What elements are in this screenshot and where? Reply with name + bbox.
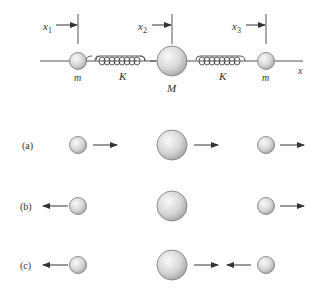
mode-c: (c) [20,250,275,280]
system-at-rest: x x1 x2 x3 [40,14,303,94]
mode-label-b: (b) [20,201,32,213]
mass-label-left: m [74,72,81,83]
mass-m-left [70,53,87,70]
mode-b: (b) [20,191,304,221]
mass-label-center: M [166,82,177,94]
spring-label-left: K [118,70,127,82]
mode-label-a: (a) [22,140,33,152]
position-marker-x1: x1 [42,14,78,44]
spring-label-right: K [218,70,227,82]
spring-mass-diagram: x x1 x2 x3 [0,0,314,294]
mass-label-right: m [262,72,269,83]
svg-text:x1: x1 [42,20,52,35]
position-marker-x3: x3 [231,14,266,44]
svg-text:x2: x2 [137,20,147,35]
mass-m-right [258,53,275,70]
mass-M-center [157,46,187,76]
position-marker-x2: x2 [137,14,172,44]
mode-a: (a) [22,130,304,160]
x-axis-label: x [297,65,303,76]
svg-text:x3: x3 [231,20,241,35]
mode-label-c: (c) [20,260,31,272]
